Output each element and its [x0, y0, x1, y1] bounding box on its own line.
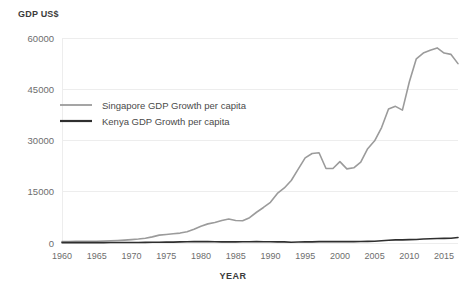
legend-label-0: Singapore GDP Growth per capita — [102, 100, 247, 111]
x-tick-label: 1975 — [156, 251, 176, 261]
data-series — [62, 48, 458, 243]
x-tick-label: 2000 — [330, 251, 350, 261]
gridlines — [62, 38, 458, 243]
y-tick-label: 15000 — [28, 186, 54, 197]
y-tick-label: 0 — [49, 238, 54, 249]
x-tick-label: 2005 — [365, 251, 385, 261]
x-tick-label: 1965 — [87, 251, 107, 261]
x-tick-label: 1980 — [191, 251, 211, 261]
series-line-0 — [62, 48, 458, 242]
x-tick-label: 1985 — [226, 251, 246, 261]
chart-page: GDP US$ YEAR 015000300004500060000 19601… — [0, 0, 466, 291]
chart-legend: Singapore GDP Growth per capitaKenya GDP… — [60, 100, 247, 127]
x-tick-label: 1970 — [121, 251, 141, 261]
x-tick-label: 1990 — [260, 251, 280, 261]
x-tick-label: 2015 — [434, 251, 454, 261]
y-axis-tick-labels: 015000300004500060000 — [28, 33, 54, 249]
y-tick-label: 45000 — [28, 84, 54, 95]
x-tick-label: 1995 — [295, 251, 315, 261]
legend-label-1: Kenya GDP Growth per capita — [102, 116, 230, 127]
x-axis-tick-labels: 1960196519701975198019851990199520002005… — [52, 251, 454, 261]
y-tick-label: 60000 — [28, 33, 54, 44]
x-tick-label: 2010 — [399, 251, 419, 261]
line-chart: 015000300004500060000 196019651970197519… — [0, 0, 466, 291]
y-tick-label: 30000 — [28, 135, 54, 146]
x-tick-label: 1960 — [52, 251, 72, 261]
